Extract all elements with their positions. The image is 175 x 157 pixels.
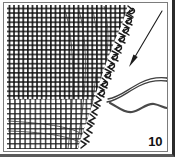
- figure-illustration-10: 10 woven mesh frayed edge loose flat fib…: [0, 0, 175, 157]
- mesh-fabric-artwork: [4, 3, 168, 152]
- figure-number-label: 10: [148, 135, 162, 148]
- plate-frame: 10: [0, 0, 175, 157]
- plate-inner-border: 10: [3, 2, 168, 152]
